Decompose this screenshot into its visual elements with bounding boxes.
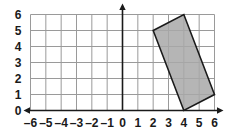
x-tick-label: 1 [134,116,141,130]
y-tick-label: 3 [15,56,22,70]
x-tick-label: 2 [150,116,157,130]
y-tick-label: 0 [15,104,22,118]
x-axis-arrow-right-icon [217,107,224,113]
x-tick-label: –5 [39,116,53,130]
coordinate-grid-figure: –6–5–4–3–2–10123456 0123456 [0,0,229,131]
y-tick-label: 6 [15,8,22,22]
x-tick-label: 3 [165,116,172,130]
y-axis-arrow-up-icon [119,4,125,11]
x-tick-label: –2 [85,116,99,130]
x-tick-label: 5 [196,116,203,130]
x-tick-label: 6 [211,116,218,130]
y-tick-label: 4 [15,40,22,54]
y-axis-tick-labels: 0123456 [15,8,22,118]
x-tick-label: –1 [100,116,114,130]
x-tick-label: –6 [24,116,38,130]
x-axis-tick-labels: –6–5–4–3–2–10123456 [24,116,218,130]
x-tick-label: 0 [119,116,126,130]
y-tick-label: 5 [15,24,22,38]
coordinate-plane-svg: –6–5–4–3–2–10123456 0123456 [0,0,229,131]
x-tick-label: 4 [180,116,187,130]
x-tick-label: –4 [54,116,68,130]
y-tick-label: 1 [15,88,22,102]
x-tick-label: –3 [70,116,84,130]
x-axis-arrow-left-icon [24,107,31,113]
y-tick-label: 2 [15,72,22,86]
